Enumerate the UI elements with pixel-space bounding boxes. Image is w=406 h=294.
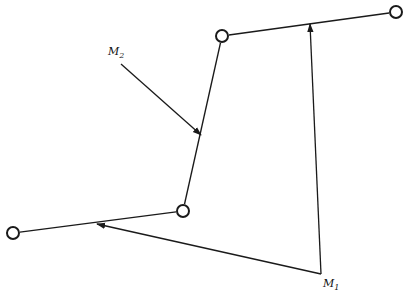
- segment-bc: [185, 43, 221, 204]
- hinge-nodes: [7, 6, 402, 239]
- force-arrows: [97, 24, 321, 274]
- m1-to-ab-arrow: [97, 224, 321, 274]
- node-b-circle-icon: [177, 205, 189, 217]
- label-m1: M1: [322, 277, 339, 292]
- label-m2: M2: [107, 45, 124, 60]
- m2-arrow: [121, 64, 201, 135]
- node-d-circle-icon: [390, 6, 402, 18]
- polyline-segments: [20, 13, 389, 232]
- node-c-circle-icon: [216, 30, 228, 42]
- segment-ab: [20, 212, 176, 232]
- node-a-circle-icon: [7, 227, 19, 239]
- segment-cd: [229, 13, 389, 35]
- m1-to-cd-arrow: [310, 24, 321, 274]
- diagram-canvas: M2M1: [0, 0, 406, 294]
